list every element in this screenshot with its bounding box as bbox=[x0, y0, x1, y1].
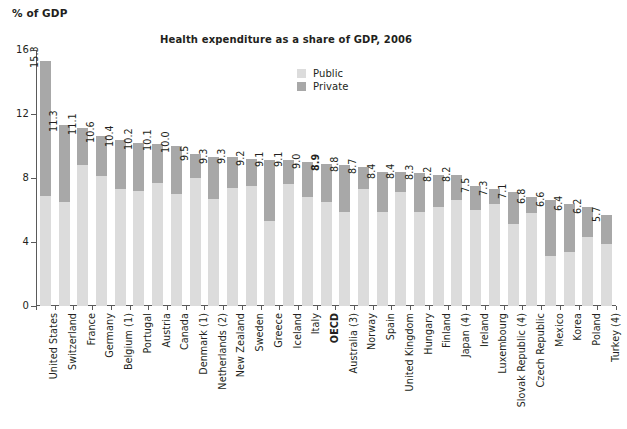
bar-segment-public[interactable] bbox=[489, 204, 500, 306]
bar-value-label: 8.9 bbox=[311, 153, 321, 170]
bar-group[interactable] bbox=[208, 157, 219, 306]
bar-group[interactable] bbox=[489, 189, 500, 306]
bar-segment-public[interactable] bbox=[302, 197, 313, 306]
bar-segment-public[interactable] bbox=[414, 212, 425, 306]
x-tick-mark bbox=[354, 306, 355, 310]
bar-segment-public[interactable] bbox=[433, 207, 444, 306]
bar-group[interactable] bbox=[526, 197, 537, 306]
bar-segment-public[interactable] bbox=[133, 191, 144, 306]
bar-value-label: 8.4 bbox=[386, 163, 396, 179]
bar-group[interactable] bbox=[601, 215, 612, 306]
y-tick-label: 12 bbox=[5, 109, 29, 119]
x-category-label: Hungary bbox=[424, 313, 434, 355]
y-tick-label: 16 bbox=[5, 45, 29, 55]
bar-group[interactable] bbox=[283, 160, 294, 306]
bar-segment-public[interactable] bbox=[59, 202, 70, 306]
bar-group[interactable] bbox=[414, 173, 425, 306]
bar-segment-public[interactable] bbox=[601, 244, 612, 306]
bar-group[interactable] bbox=[433, 175, 444, 306]
bar-group[interactable] bbox=[246, 159, 257, 306]
bar-value-label: 8.3 bbox=[405, 165, 415, 181]
bar-group[interactable] bbox=[133, 143, 144, 306]
x-category-label: United States bbox=[49, 313, 59, 379]
bar-group[interactable] bbox=[395, 172, 406, 306]
x-tick-mark bbox=[298, 306, 299, 310]
x-tick-mark bbox=[36, 306, 37, 310]
bar-value-label: 7.1 bbox=[498, 184, 508, 200]
bar-segment-private[interactable] bbox=[601, 215, 612, 244]
bar-value-label: 7.3 bbox=[479, 181, 489, 197]
bar-group[interactable] bbox=[40, 61, 51, 306]
bar-group[interactable] bbox=[59, 125, 70, 306]
x-category-label: France bbox=[87, 313, 97, 346]
bar-group[interactable] bbox=[115, 140, 126, 306]
bar-group[interactable] bbox=[358, 167, 369, 306]
bar-value-label: 8.8 bbox=[330, 157, 340, 173]
bar-segment-public[interactable] bbox=[171, 194, 182, 306]
x-tick-mark bbox=[167, 306, 168, 310]
x-category-label: Korea bbox=[573, 313, 583, 341]
x-tick-mark bbox=[373, 306, 374, 310]
bar-segment-public[interactable] bbox=[96, 176, 107, 306]
bar-segment-public[interactable] bbox=[545, 256, 556, 306]
bar-group[interactable] bbox=[545, 200, 556, 306]
bar-group[interactable] bbox=[302, 162, 313, 306]
bar-group[interactable] bbox=[508, 192, 519, 306]
bar-segment-public[interactable] bbox=[358, 189, 369, 306]
x-tick-mark bbox=[279, 306, 280, 310]
bar-value-label: 9.3 bbox=[217, 149, 227, 165]
bar-segment-public[interactable] bbox=[564, 252, 575, 306]
x-category-label: Denmark (1) bbox=[199, 313, 209, 375]
bar-segment-public[interactable] bbox=[339, 212, 350, 306]
bar-segment-public[interactable] bbox=[377, 212, 388, 306]
bar-segment-public[interactable] bbox=[77, 165, 88, 306]
x-tick-mark bbox=[317, 306, 318, 310]
bar-group[interactable] bbox=[321, 164, 332, 306]
bar-segment-public[interactable] bbox=[208, 199, 219, 306]
x-tick-mark bbox=[204, 306, 205, 310]
bar-group[interactable] bbox=[264, 160, 275, 306]
bar-segment-private[interactable] bbox=[59, 125, 70, 202]
x-category-label: Ireland bbox=[480, 313, 490, 347]
x-tick-mark bbox=[410, 306, 411, 310]
bar-segment-public[interactable] bbox=[470, 210, 481, 306]
bar-segment-public[interactable] bbox=[451, 200, 462, 306]
x-category-label: Australia (3) bbox=[349, 313, 359, 373]
bar-group[interactable] bbox=[96, 136, 107, 306]
bar-group[interactable] bbox=[152, 144, 163, 306]
bar-group[interactable] bbox=[227, 157, 238, 306]
bar-value-label: 9.2 bbox=[236, 150, 246, 166]
x-category-label: Greece bbox=[274, 313, 284, 348]
bar-group[interactable] bbox=[190, 154, 201, 306]
bar-group[interactable] bbox=[451, 175, 462, 306]
bar-segment-private[interactable] bbox=[264, 160, 275, 221]
bar-segment-public[interactable] bbox=[264, 221, 275, 306]
x-tick-mark bbox=[504, 306, 505, 310]
bar-value-label: 10.6 bbox=[86, 122, 96, 144]
x-category-label: Netherlands (2) bbox=[218, 313, 228, 390]
bar-group[interactable] bbox=[171, 146, 182, 306]
bar-group[interactable] bbox=[339, 165, 350, 306]
bar-segment-public[interactable] bbox=[582, 237, 593, 306]
bar-group[interactable] bbox=[564, 204, 575, 306]
bar-segment-public[interactable] bbox=[321, 202, 332, 306]
bar-group[interactable] bbox=[470, 186, 481, 306]
bar-segment-public[interactable] bbox=[40, 196, 51, 306]
bar-group[interactable] bbox=[77, 128, 88, 306]
x-category-label: Spain bbox=[386, 313, 396, 340]
bar-segment-public[interactable] bbox=[152, 183, 163, 306]
bar-segment-public[interactable] bbox=[190, 178, 201, 306]
x-category-label: Sweden bbox=[255, 313, 265, 352]
bar-segment-public[interactable] bbox=[227, 188, 238, 306]
bar-segment-public[interactable] bbox=[283, 184, 294, 306]
bar-segment-public[interactable] bbox=[508, 224, 519, 306]
bar-segment-public[interactable] bbox=[246, 186, 257, 306]
bar-segment-public[interactable] bbox=[395, 192, 406, 306]
bar-value-label: 9.1 bbox=[274, 152, 284, 168]
bar-segment-public[interactable] bbox=[115, 189, 126, 306]
bar-group[interactable] bbox=[377, 172, 388, 306]
x-category-label: Poland bbox=[592, 313, 602, 346]
x-category-label: New Zealand bbox=[236, 313, 246, 377]
x-tick-mark bbox=[261, 306, 262, 310]
bar-segment-public[interactable] bbox=[526, 213, 537, 306]
